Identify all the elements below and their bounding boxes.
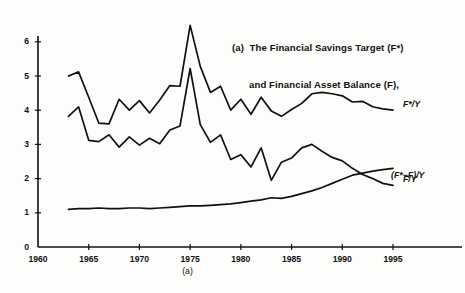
x-tick-label: 1970 [119,254,159,264]
y-tick-label: 0 [13,242,29,252]
x-tick-label: 1965 [69,254,109,264]
series-line-FFY [68,168,393,209]
series-lines [68,25,393,209]
axes [38,36,462,247]
x-tick-label: 1985 [272,254,312,264]
series-line-FY [68,25,393,124]
y-tick-label: 4 [13,105,29,115]
y-tick-label: 2 [13,173,29,183]
y-tick-label: 3 [13,139,29,149]
y-tick-label: 5 [13,71,29,81]
series-label-FFY: (F*−F)/Y [391,170,424,180]
x-tick-label: 1980 [221,254,261,264]
panel-caption: (a) [0,266,465,276]
x-tick-label: 1975 [170,254,210,264]
plot-area [0,0,465,293]
panel-caption-text: (a) [182,266,193,276]
series-label-FY: F*/Y [403,99,420,109]
x-tick-label: 1960 [18,254,58,264]
series-line-FY [68,68,393,185]
chart-figure: (a) The Financial Savings Target (F*) an… [0,0,465,293]
y-tick-label: 6 [13,36,29,46]
x-tick-label: 1990 [322,254,362,264]
x-tick-label: 1995 [373,254,413,264]
y-tick-label: 1 [13,207,29,217]
